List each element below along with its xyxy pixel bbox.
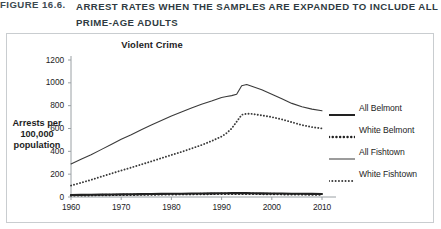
x-tick-label: 2000 xyxy=(255,202,289,212)
legend-label: All Belmont xyxy=(359,103,402,113)
figure-container: FIGURE 16.6. ARREST RATES WHEN THE SAMPL… xyxy=(0,0,441,229)
figure-title: ARREST RATES WHEN THE SAMPLES ARE EXPAND… xyxy=(76,0,441,30)
legend-item: White Belmont xyxy=(329,124,439,146)
legend-swatch-icon xyxy=(329,150,355,160)
figure-number: FIGURE 16.6. xyxy=(0,0,66,10)
y-tick-label: 400 xyxy=(30,146,64,156)
y-tick-label: 0 xyxy=(30,192,64,202)
chart-frame: Violent Crime Arrests per 100,000 popula… xyxy=(6,33,434,223)
y-tick-label: 1200 xyxy=(30,55,64,65)
legend-swatch-icon xyxy=(329,106,355,116)
legend-swatch-icon xyxy=(329,128,355,138)
chart-legend: All BelmontWhite BelmontAll FishtownWhit… xyxy=(329,102,439,190)
x-tick-label: 1980 xyxy=(154,202,188,212)
legend-item: All Belmont xyxy=(329,102,439,124)
legend-item: White Fishtown xyxy=(329,168,439,190)
figure-caption: FIGURE 16.6. ARREST RATES WHEN THE SAMPL… xyxy=(0,0,441,32)
y-tick-label: 600 xyxy=(30,123,64,133)
legend-swatch-icon xyxy=(329,172,355,182)
y-tick-label: 1000 xyxy=(30,77,64,87)
series-line xyxy=(71,85,322,164)
series-line xyxy=(71,114,322,186)
legend-item: All Fishtown xyxy=(329,146,439,168)
legend-label: White Belmont xyxy=(359,125,414,135)
y-tick-label: 200 xyxy=(30,169,64,179)
x-tick-label: 1990 xyxy=(205,202,239,212)
legend-label: White Fishtown xyxy=(359,169,417,179)
legend-label: All Fishtown xyxy=(359,147,405,157)
x-tick-label: 2010 xyxy=(305,202,339,212)
x-tick-label: 1960 xyxy=(54,202,88,212)
y-tick-label: 800 xyxy=(30,100,64,110)
x-tick-label: 1970 xyxy=(104,202,138,212)
